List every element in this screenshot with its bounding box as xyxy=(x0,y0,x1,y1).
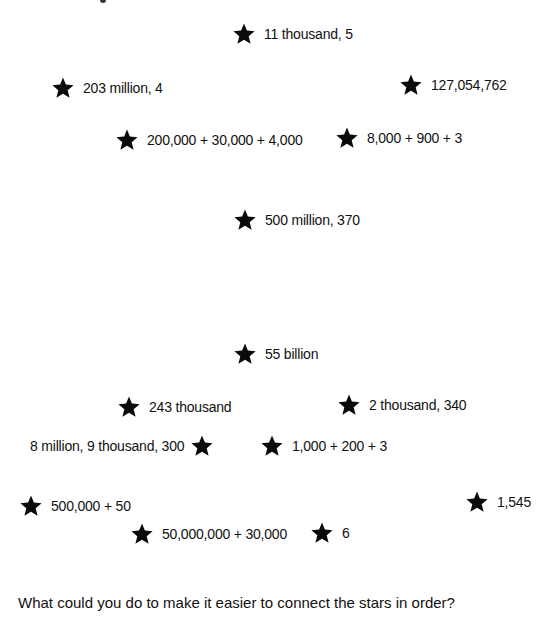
star-item[interactable]: 55 billion xyxy=(233,342,318,366)
star-item[interactable]: 6 xyxy=(310,521,350,545)
star-item[interactable]: 1,545 xyxy=(465,490,531,514)
star-item[interactable]: 500 million, 370 xyxy=(233,208,360,232)
star-label: 1,000 + 200 + 3 xyxy=(292,438,387,454)
star-label: 55 billion xyxy=(265,346,318,362)
star-label: 203 million, 4 xyxy=(83,80,163,96)
star-label: 127,054,762 xyxy=(431,77,507,93)
star-item[interactable]: 243 thousand xyxy=(117,395,231,419)
star-icon xyxy=(399,73,423,97)
star-item[interactable]: 500,000 + 50 xyxy=(19,494,131,518)
star-item[interactable]: 8,000 + 900 + 3 xyxy=(335,126,462,150)
star-icon xyxy=(19,494,43,518)
star-item[interactable]: 2 thousand, 340 xyxy=(337,393,466,417)
star-icon xyxy=(465,490,489,514)
question-text: What could you do to make it easier to c… xyxy=(18,594,455,611)
star-icon xyxy=(232,22,256,46)
star-item[interactable]: 203 million, 4 xyxy=(51,76,163,100)
star-item[interactable]: 127,054,762 xyxy=(399,73,507,97)
star-item[interactable]: 11 thousand, 5 xyxy=(232,22,353,46)
star-label: 200,000 + 30,000 + 4,000 xyxy=(147,132,303,148)
star-icon xyxy=(130,522,154,546)
star-item[interactable]: 50,000,000 + 30,000 xyxy=(130,522,287,546)
star-label: 50,000,000 + 30,000 xyxy=(162,526,287,542)
star-icon xyxy=(310,521,334,545)
star-label: 6 xyxy=(342,525,350,541)
star-icon xyxy=(115,128,139,152)
star-label: 11 thousand, 5 xyxy=(264,26,353,42)
star-icon xyxy=(51,76,75,100)
star-label: 500,000 + 50 xyxy=(51,498,131,514)
star-label: 500 million, 370 xyxy=(265,212,360,228)
star-icon xyxy=(337,393,361,417)
star-label: 2 thousand, 340 xyxy=(369,397,466,413)
star-label: 8 million, 9 thousand, 300 xyxy=(30,438,184,454)
star-label: 243 thousand xyxy=(149,399,231,415)
star-icon xyxy=(260,434,284,458)
star-icon xyxy=(190,434,214,458)
cropped-mark xyxy=(100,0,106,3)
star-item[interactable]: 1,000 + 200 + 3 xyxy=(260,434,387,458)
star-label: 1,545 xyxy=(497,494,531,510)
star-item[interactable]: 8 million, 9 thousand, 300 xyxy=(30,434,214,458)
star-icon xyxy=(117,395,141,419)
star-label: 8,000 + 900 + 3 xyxy=(367,130,462,146)
star-icon xyxy=(233,208,257,232)
star-item[interactable]: 200,000 + 30,000 + 4,000 xyxy=(115,128,303,152)
star-icon xyxy=(335,126,359,150)
star-icon xyxy=(233,342,257,366)
